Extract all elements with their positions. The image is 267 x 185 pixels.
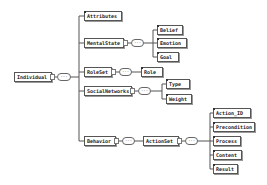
node-actionset[interactable]: ActionSet	[143, 136, 179, 146]
node-mentalstate[interactable]: MentalState	[84, 38, 124, 48]
sequence-compositor[interactable]: ···	[57, 73, 71, 81]
expand-icon[interactable]	[177, 138, 182, 144]
node-individual[interactable]: Individual	[14, 72, 52, 82]
expand-icon[interactable]	[130, 88, 135, 94]
node-weight[interactable]: Weight	[166, 94, 192, 104]
expand-icon[interactable]	[111, 69, 116, 75]
node-role[interactable]: Role	[141, 67, 163, 77]
node-behavior[interactable]: Behavior	[84, 136, 116, 146]
sequence-compositor[interactable]: ···	[122, 137, 135, 145]
node-process[interactable]: Process	[213, 136, 241, 146]
node-attributes[interactable]: Attributes	[84, 11, 122, 21]
node-belief[interactable]: Belief	[157, 25, 183, 35]
node-precondition[interactable]: Precondition	[213, 122, 255, 132]
node-result[interactable]: Result	[213, 164, 238, 174]
sequence-compositor[interactable]: ···	[138, 87, 151, 95]
sequence-compositor[interactable]: ···	[119, 68, 132, 76]
node-roleset[interactable]: RoleSet	[84, 67, 112, 77]
node-type[interactable]: Type	[166, 79, 190, 89]
node-emotion[interactable]: Emotion	[157, 38, 187, 48]
node-goal[interactable]: Goal	[157, 52, 179, 62]
expand-icon[interactable]	[114, 138, 119, 144]
sequence-compositor[interactable]: ···	[185, 137, 198, 145]
node-socialnetworks[interactable]: SocialNetworks	[84, 86, 132, 96]
node-content[interactable]: Content	[213, 150, 242, 160]
expand-icon[interactable]	[50, 74, 55, 80]
sequence-compositor[interactable]: ···	[131, 39, 144, 47]
node-action-id[interactable]: Action_ID	[213, 108, 251, 118]
expand-icon[interactable]	[123, 40, 128, 46]
